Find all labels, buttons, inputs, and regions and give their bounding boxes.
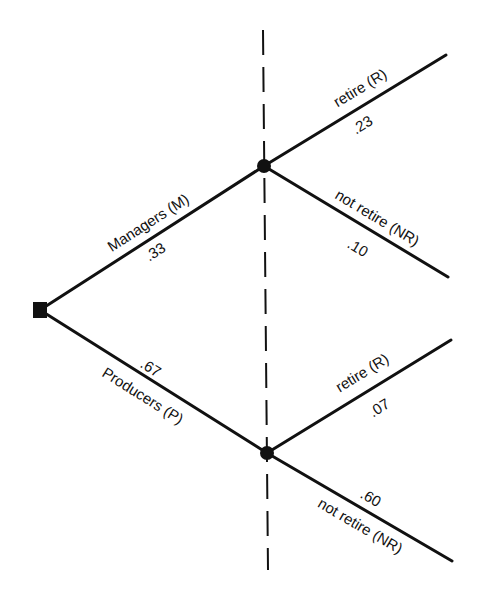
branch-line-producers [40,310,267,453]
branch-line-producers-retire [267,340,451,453]
branch-line-producers-not-retire [267,453,452,561]
chance-node-producers [260,446,274,460]
branch-line-managers [40,166,264,310]
branch-line-managers-retire [264,55,446,166]
dashed-divider-line [263,30,268,570]
root-decision-node [33,302,47,318]
probability-tree-diagram: Managers (M) .33 .67 Producers (P) retir… [0,0,481,603]
chance-node-managers [257,159,271,173]
tree-lines [0,0,481,603]
branch-line-managers-not-retire [264,166,448,277]
